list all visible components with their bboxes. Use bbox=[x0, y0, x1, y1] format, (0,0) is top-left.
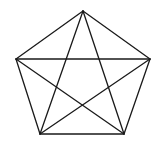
diagram-canvas bbox=[0, 0, 161, 141]
edge-top-to-right bbox=[83, 11, 150, 59]
diagonal-left-to-bottom-right bbox=[16, 59, 124, 134]
diagonal-right-to-bottom-left bbox=[40, 59, 150, 134]
pentagon-pentagram-figure bbox=[0, 0, 161, 141]
edge-bottom-left-to-left bbox=[16, 59, 40, 134]
edge-right-to-bottom-right bbox=[124, 59, 150, 134]
diagonal-top-to-bottom-right bbox=[83, 11, 124, 134]
diagonal-top-to-bottom-left bbox=[40, 11, 83, 134]
edge-left-to-top bbox=[16, 11, 83, 59]
